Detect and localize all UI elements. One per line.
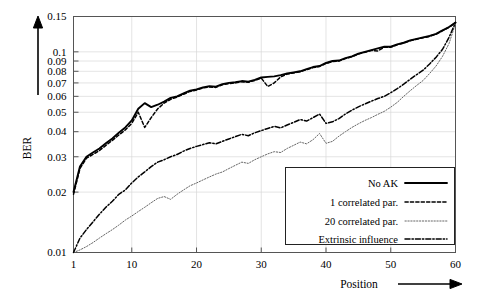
legend-label: No AK <box>368 178 398 189</box>
x-tick-label: 60 <box>450 258 462 270</box>
y-tick-label: 0.01 <box>47 246 66 258</box>
y-tick-label: 0.07 <box>47 77 67 89</box>
x-tick-label: 30 <box>256 258 268 270</box>
chart-legend: No AK1 correlated par.20 correlated par.… <box>286 168 455 245</box>
legend-label: 1 correlated par. <box>330 197 398 208</box>
x-tick-label: 50 <box>385 258 397 270</box>
y-tick-label: 0.06 <box>47 90 67 102</box>
y-tick-label: 0.05 <box>47 106 67 118</box>
series-line <box>74 23 456 193</box>
right-arrow-icon <box>450 279 462 288</box>
chart-canvas: 0.010.020.030.040.050.060.070.080.090.10… <box>0 0 486 300</box>
ber-position-chart: 0.010.020.030.040.050.060.070.080.090.10… <box>0 0 486 300</box>
y-tick-label: 0.04 <box>47 125 67 137</box>
x-tick-label: 1 <box>71 258 77 270</box>
y-axis-title: BER <box>21 136 33 159</box>
x-tick-label: 20 <box>191 258 203 270</box>
x-axis-arrow-group <box>398 279 462 288</box>
legend-label: Extrinsic influence <box>318 234 398 245</box>
y-tick-label: 0.02 <box>47 186 66 198</box>
x-axis-tickmarks <box>74 248 456 253</box>
y-tick-label: 0.15 <box>47 10 67 22</box>
x-axis-tick-labels: 1102030405060 <box>71 258 462 270</box>
y-tick-label: 0.1 <box>53 46 67 58</box>
x-tick-label: 10 <box>126 258 138 270</box>
y-axis-tick-labels: 0.010.020.030.040.050.060.070.080.090.10… <box>47 10 67 258</box>
y-tick-label: 0.08 <box>47 65 67 77</box>
up-arrow-icon <box>33 16 42 28</box>
x-axis-title: Position <box>340 278 378 290</box>
y-axis-tickmarks <box>74 17 79 253</box>
y-tick-label: 0.03 <box>47 151 67 163</box>
x-tick-label: 40 <box>321 258 333 270</box>
y-axis-arrow-group <box>33 16 42 95</box>
legend-label: 20 correlated par. <box>325 216 398 227</box>
